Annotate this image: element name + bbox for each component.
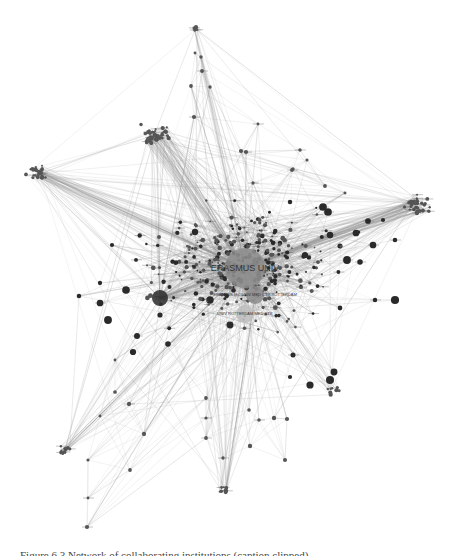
graph-node bbox=[214, 238, 218, 242]
graph-edge bbox=[87, 418, 206, 527]
graph-node bbox=[161, 126, 165, 130]
graph-node bbox=[200, 285, 203, 288]
graph-node bbox=[224, 486, 228, 490]
graph-edge bbox=[88, 460, 130, 470]
graph-node bbox=[199, 55, 203, 59]
graph-node bbox=[221, 456, 224, 459]
graph-node bbox=[331, 369, 338, 376]
graph-node bbox=[186, 245, 189, 248]
graph-node bbox=[244, 150, 248, 154]
graph-node bbox=[248, 444, 252, 448]
graph-node bbox=[270, 279, 274, 283]
graph-node bbox=[86, 458, 89, 461]
graph-node bbox=[427, 209, 431, 213]
graph-node bbox=[236, 223, 238, 225]
graph-node bbox=[232, 239, 236, 243]
graph-node bbox=[266, 249, 270, 253]
network-graph: ERASMUS UNIVTNOERASMUS MC UNIV MED CTR R… bbox=[0, 0, 464, 540]
graph-node bbox=[188, 248, 191, 251]
graph-edge bbox=[87, 470, 130, 527]
graph-edge bbox=[42, 169, 144, 434]
graph-node bbox=[224, 285, 228, 289]
graph-node bbox=[40, 177, 43, 180]
graph-node bbox=[312, 266, 316, 270]
graph-node bbox=[238, 226, 240, 228]
graph-edge bbox=[253, 170, 292, 183]
graph-node bbox=[184, 255, 187, 258]
graph-node bbox=[181, 279, 183, 281]
graph-node bbox=[263, 223, 267, 227]
graph-node bbox=[175, 271, 177, 273]
graph-edge bbox=[223, 410, 249, 458]
graph-node bbox=[232, 227, 234, 229]
graph-node bbox=[246, 231, 248, 233]
graph-node bbox=[87, 497, 90, 500]
graph-node bbox=[165, 341, 171, 347]
graph-node bbox=[420, 201, 423, 204]
graph-node bbox=[210, 282, 214, 286]
graph-node bbox=[172, 296, 175, 299]
graph-node bbox=[272, 247, 275, 250]
graph-node bbox=[314, 247, 316, 249]
graph-node bbox=[329, 393, 333, 397]
graph-node bbox=[227, 322, 234, 329]
graph-node bbox=[223, 278, 226, 281]
graph-node bbox=[246, 243, 248, 245]
graph-node bbox=[189, 84, 193, 88]
graph-node bbox=[294, 326, 297, 329]
graph-node bbox=[268, 211, 271, 214]
graph-node bbox=[63, 450, 67, 454]
graph-node bbox=[60, 445, 62, 447]
graph-node bbox=[357, 259, 363, 265]
graph-node bbox=[166, 136, 170, 140]
graph-node bbox=[232, 286, 234, 288]
graph-node bbox=[298, 148, 302, 152]
graph-edge bbox=[285, 419, 287, 460]
graph-node bbox=[285, 417, 289, 421]
graph-node bbox=[194, 291, 199, 296]
graph-node bbox=[134, 333, 140, 339]
graph-node bbox=[163, 131, 165, 133]
graph-node bbox=[340, 245, 343, 248]
graph-edge bbox=[249, 410, 285, 460]
graph-node bbox=[268, 258, 271, 261]
graph-node bbox=[260, 229, 262, 231]
graph-node bbox=[224, 239, 227, 242]
graph-node bbox=[145, 243, 148, 246]
graph-node bbox=[217, 246, 222, 251]
graph-node bbox=[416, 194, 418, 196]
graph-node bbox=[263, 238, 267, 242]
graph-node bbox=[110, 243, 114, 247]
graph-node bbox=[316, 213, 319, 216]
graph-node bbox=[304, 244, 308, 248]
graph-edge bbox=[246, 124, 258, 152]
graph-node bbox=[329, 388, 332, 391]
graph-node bbox=[243, 327, 247, 331]
graph-node bbox=[267, 282, 271, 286]
graph-node bbox=[315, 207, 317, 209]
graph-node bbox=[200, 69, 204, 73]
graph-node bbox=[207, 303, 210, 306]
graph-node bbox=[208, 259, 211, 262]
graph-node bbox=[322, 286, 324, 288]
graph-node bbox=[286, 320, 289, 323]
graph-node bbox=[266, 274, 268, 276]
graph-node bbox=[338, 306, 343, 311]
graph-edge bbox=[100, 416, 144, 434]
graph-node bbox=[321, 273, 323, 275]
graph-node bbox=[215, 257, 219, 261]
graph-node bbox=[247, 408, 251, 412]
graph-node bbox=[223, 486, 225, 488]
graph-node bbox=[145, 139, 149, 143]
graph-edge bbox=[206, 410, 249, 418]
graph-node bbox=[288, 375, 292, 379]
graph-node bbox=[206, 296, 213, 303]
graph-node bbox=[273, 305, 278, 310]
graph-node bbox=[170, 300, 172, 302]
graph-node bbox=[253, 221, 256, 224]
graph-node bbox=[298, 278, 303, 283]
graph-node bbox=[208, 85, 211, 88]
graph-node bbox=[104, 316, 112, 324]
graph-node bbox=[263, 287, 268, 292]
graph-node bbox=[291, 222, 293, 224]
